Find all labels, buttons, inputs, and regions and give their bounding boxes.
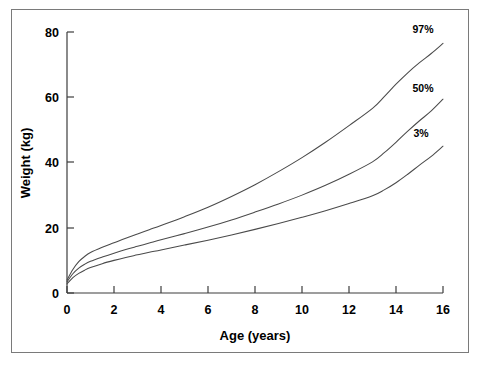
- curve-50: [67, 99, 443, 282]
- curve-97: [67, 43, 443, 280]
- x-tick-label-16: 16: [436, 303, 450, 317]
- growth-chart: 80 60 40 20 0 0 2 4 6 8 10 12 14 16 Weig…: [0, 0, 481, 368]
- y-tick-label-20: 20: [45, 222, 59, 236]
- x-tick-label-4: 4: [158, 303, 165, 317]
- y-axis-title: Weight (kg): [18, 128, 33, 199]
- x-tick-label-2: 2: [111, 303, 118, 317]
- series-label-97: 97%: [412, 23, 434, 35]
- y-tick-label-40: 40: [45, 156, 59, 170]
- x-tick-label-12: 12: [342, 303, 356, 317]
- curve-3: [67, 146, 443, 284]
- y-tick-marks: [67, 32, 74, 293]
- y-tick-label-60: 60: [45, 91, 59, 105]
- y-tick-label-80: 80: [45, 26, 59, 40]
- series-label-3: 3%: [413, 127, 429, 139]
- x-tick-label-14: 14: [389, 303, 403, 317]
- x-tick-label-8: 8: [252, 303, 259, 317]
- x-tick-label-10: 10: [295, 303, 309, 317]
- y-tick-label-0: 0: [52, 287, 59, 301]
- x-tick-label-0: 0: [64, 303, 71, 317]
- x-tick-marks: [67, 286, 443, 293]
- x-axis-title: Age (years): [220, 328, 291, 343]
- x-tick-label-6: 6: [205, 303, 212, 317]
- series-label-50: 50%: [412, 82, 434, 94]
